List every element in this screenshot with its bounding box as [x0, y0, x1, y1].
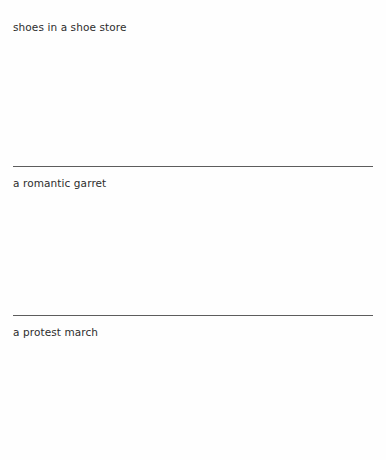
section-divider-2: [13, 315, 373, 316]
section-divider-1: [13, 166, 373, 167]
blank-image-area-1: [0, 34, 386, 166]
blank-image-area-2: [0, 190, 386, 315]
blank-image-area-3: [0, 339, 386, 460]
caption-text-shoes-in-a-shoe-store: shoes in a shoe store: [13, 21, 127, 34]
caption-text-a-protest-march: a protest march: [13, 326, 98, 339]
caption-text-a-romantic-garret: a romantic garret: [13, 177, 106, 190]
document-page: shoes in a shoe store a romantic garret …: [0, 0, 386, 460]
